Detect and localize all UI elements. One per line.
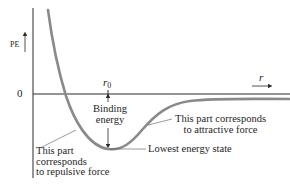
x-axis-label: r (259, 72, 263, 83)
repulsive-force-annotation: This part corresponds to repulsive force (36, 146, 126, 178)
r0-label: r0 (103, 77, 111, 90)
r0-label-subscript: 0 (107, 81, 111, 90)
attractive-force-annotation: This part corresponds to attractive forc… (175, 113, 266, 135)
zero-label: 0 (17, 88, 23, 99)
binding-energy-label: Binding energy (88, 103, 132, 125)
repulsive-line-3: to repulsive force (36, 167, 126, 178)
y-axis-label: PE (10, 41, 19, 49)
attractive-line-2: to attractive force (175, 124, 266, 135)
lowest-energy-state-label: Lowest energy state (148, 144, 232, 155)
repulsive-line-1: This part (36, 146, 126, 157)
attractive-line-1: This part corresponds (175, 113, 266, 124)
